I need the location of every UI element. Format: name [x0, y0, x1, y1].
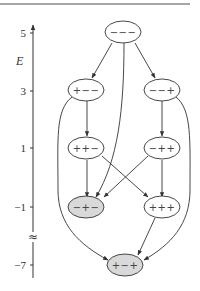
energy-axis: E 5 3 1 −1 −7 ≈	[14, 25, 38, 278]
node-label: +−−	[73, 85, 100, 96]
node-label: ++−	[73, 143, 100, 154]
node-label: −++	[149, 143, 176, 154]
node-ppm: ++−	[68, 137, 104, 159]
tick-1: 1	[21, 142, 34, 154]
node-pmm: +−−	[68, 79, 104, 101]
tick-label: 3	[21, 85, 27, 97]
node-label: −−−	[110, 27, 137, 38]
tick-label: −7	[14, 259, 26, 271]
node-mpm: −+−	[68, 196, 104, 218]
node-label: +−+	[112, 260, 139, 271]
node-ppp: +++	[144, 196, 180, 218]
tick-label: −1	[14, 201, 26, 213]
node-mpp: −++	[144, 137, 180, 159]
edge-ppp-to-pmp	[138, 218, 155, 255]
tick-minus1: −1	[14, 201, 33, 213]
node-label: −−+	[149, 85, 176, 96]
edge-mmm-to-mmp	[135, 43, 155, 78]
node-mmp: −−+	[144, 79, 180, 101]
axis-break-icon: ≈	[28, 230, 38, 244]
node-label: +++	[149, 202, 176, 213]
tick-3: 3	[21, 85, 34, 97]
edge-mmm-to-pmm	[92, 43, 112, 78]
energy-transition-diagram: E 5 3 1 −1 −7 ≈	[0, 0, 200, 291]
tick-5: 5	[21, 27, 34, 39]
node-mmm: −−−	[105, 21, 141, 43]
edge-mmm-to-mpm	[96, 43, 124, 197]
tick-label: 5	[21, 27, 27, 39]
edge-pmm-to-pmp	[58, 97, 108, 260]
edge-mmp-to-pmp	[144, 97, 190, 260]
node-pmp: +−+	[107, 254, 143, 276]
node-label: −+−	[73, 202, 100, 213]
tick-label: 1	[21, 142, 27, 154]
axis-title: E	[15, 54, 24, 68]
tick-minus7: −7	[14, 259, 33, 271]
